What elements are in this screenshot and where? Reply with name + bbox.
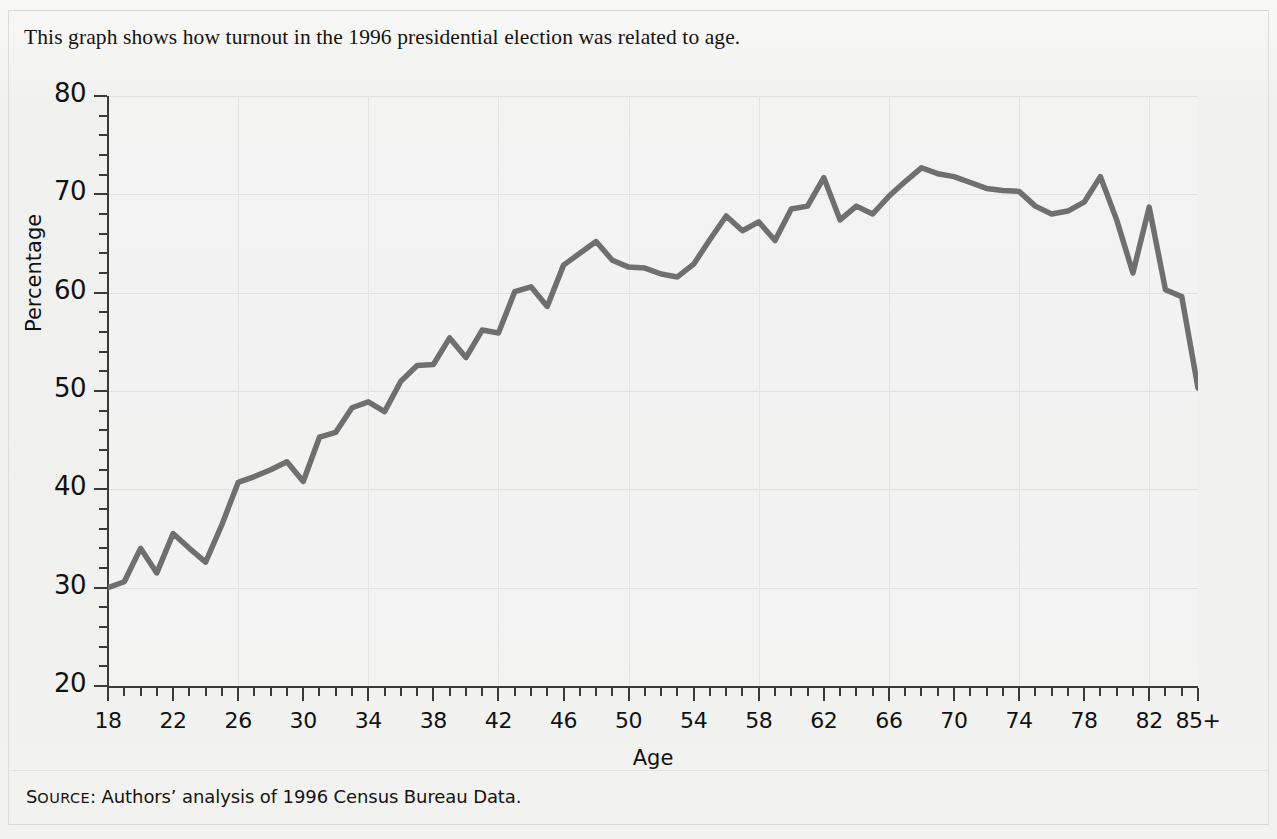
x-tick-minor xyxy=(140,688,142,696)
y-tick-minor xyxy=(99,508,107,510)
x-tick-minor xyxy=(205,688,207,696)
x-tick-minor xyxy=(416,688,418,696)
x-tick-minor xyxy=(676,688,678,696)
chart-plot-area: 2030405060708018222630343842465054586266… xyxy=(108,96,1198,686)
y-tick-minor xyxy=(99,272,107,274)
y-tick-minor xyxy=(99,567,107,569)
x-tick-minor xyxy=(335,688,337,696)
x-tick-major xyxy=(628,688,630,701)
y-tick-label: 70 xyxy=(54,176,86,206)
x-tick-minor xyxy=(286,688,288,696)
x-tick-minor xyxy=(1181,688,1183,696)
x-tick-minor xyxy=(807,688,809,696)
x-tick-label: 38 xyxy=(420,708,447,733)
x-tick-major xyxy=(237,688,239,701)
x-tick-minor xyxy=(920,688,922,696)
x-tick-minor xyxy=(579,688,581,696)
y-tick-major xyxy=(94,95,107,97)
x-tick-label: 18 xyxy=(94,708,121,733)
x-tick-minor xyxy=(725,688,727,696)
x-tick-minor xyxy=(969,688,971,696)
x-tick-minor xyxy=(1099,688,1101,696)
x-tick-label: 58 xyxy=(745,708,772,733)
x-tick-label: 78 xyxy=(1071,708,1098,733)
y-tick-minor xyxy=(99,154,107,156)
source-label-prefix: S xyxy=(26,786,37,807)
x-tick-minor xyxy=(481,688,483,696)
x-tick-label: 30 xyxy=(290,708,317,733)
y-tick-major xyxy=(94,685,107,687)
y-tick-minor xyxy=(99,429,107,431)
x-tick-minor xyxy=(546,688,548,696)
x-tick-major xyxy=(563,688,565,701)
y-tick-minor xyxy=(99,252,107,254)
figure-caption: This graph shows how turnout in the 1996… xyxy=(24,24,1204,50)
x-tick-minor xyxy=(774,688,776,696)
x-tick-minor xyxy=(1132,688,1134,696)
x-tick-minor xyxy=(644,688,646,696)
x-tick-label: 70 xyxy=(940,708,967,733)
x-tick-major xyxy=(1148,688,1150,701)
y-tick-minor xyxy=(99,174,107,176)
x-tick-label: 85+ xyxy=(1175,708,1220,733)
x-tick-minor xyxy=(1051,688,1053,696)
y-tick-label: 40 xyxy=(54,471,86,501)
x-tick-major xyxy=(107,688,109,701)
y-tick-label: 50 xyxy=(54,373,86,403)
x-tick-minor xyxy=(514,688,516,696)
y-tick-minor xyxy=(99,134,107,136)
y-tick-major xyxy=(94,488,107,490)
y-tick-minor xyxy=(99,213,107,215)
y-tick-minor xyxy=(99,665,107,667)
y-tick-label: 20 xyxy=(54,668,86,698)
y-tick-major xyxy=(94,292,107,294)
x-tick-minor xyxy=(253,688,255,696)
y-tick-minor xyxy=(99,370,107,372)
x-tick-minor xyxy=(660,688,662,696)
x-tick-major xyxy=(497,688,499,701)
x-tick-minor xyxy=(449,688,451,696)
figure-border-left xyxy=(8,10,9,825)
y-tick-minor xyxy=(99,410,107,412)
x-tick-minor xyxy=(384,688,386,696)
x-tick-minor xyxy=(855,688,857,696)
x-tick-minor xyxy=(986,688,988,696)
x-tick-label: 74 xyxy=(1005,708,1032,733)
x-tick-label: 54 xyxy=(680,708,707,733)
source-text: Authors’ analysis of 1996 Census Bureau … xyxy=(96,786,521,807)
figure-border-right xyxy=(1268,10,1269,825)
x-tick-minor xyxy=(188,688,190,696)
x-tick-minor xyxy=(400,688,402,696)
y-axis-title: Percentage xyxy=(22,214,46,332)
y-tick-major xyxy=(94,587,107,589)
y-tick-minor xyxy=(99,547,107,549)
x-tick-minor xyxy=(1067,688,1069,696)
x-tick-label: 26 xyxy=(225,708,252,733)
x-tick-minor xyxy=(465,688,467,696)
x-tick-label: 66 xyxy=(875,708,902,733)
y-tick-label: 60 xyxy=(54,275,86,305)
x-tick-minor xyxy=(270,688,272,696)
x-tick-minor xyxy=(872,688,874,696)
x-tick-minor xyxy=(741,688,743,696)
x-tick-major xyxy=(823,688,825,701)
x-tick-minor xyxy=(156,688,158,696)
figure-border-top xyxy=(8,10,1269,11)
x-tick-major xyxy=(172,688,174,701)
x-tick-major xyxy=(888,688,890,701)
x-tick-label: 34 xyxy=(355,708,382,733)
x-tick-minor xyxy=(790,688,792,696)
x-tick-label: 50 xyxy=(615,708,642,733)
x-axis-title: Age xyxy=(108,746,1198,770)
y-tick-minor xyxy=(99,528,107,530)
source-divider xyxy=(8,770,1269,771)
x-tick-minor xyxy=(221,688,223,696)
x-tick-major xyxy=(432,688,434,701)
figure-source: SOURCE: Authors’ analysis of 1996 Census… xyxy=(26,786,1206,807)
figure-border-bottom xyxy=(8,824,1269,825)
x-tick-minor xyxy=(123,688,125,696)
x-tick-minor xyxy=(1164,688,1166,696)
x-tick-major xyxy=(1018,688,1020,701)
y-tick-minor xyxy=(99,646,107,648)
y-tick-minor xyxy=(99,626,107,628)
